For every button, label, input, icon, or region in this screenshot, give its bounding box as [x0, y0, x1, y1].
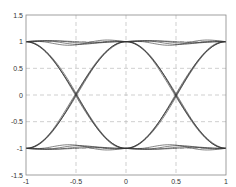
- x-tick-label: -0.5: [70, 178, 82, 185]
- y-tick-label: 0.5: [13, 65, 23, 72]
- y-tick-label: -1.5: [11, 172, 23, 179]
- eye-diagram-chart: -1-0.500.51 -1.5-1-0.500.511.5: [0, 0, 236, 187]
- y-axis-ticks: -1.5-1-0.500.511.5: [11, 12, 23, 179]
- y-tick-label: 1.5: [13, 12, 23, 19]
- x-tick-label: 1: [224, 178, 228, 185]
- x-axis-ticks: -1-0.500.51: [23, 178, 228, 185]
- y-tick-label: -1: [17, 145, 23, 152]
- y-tick-label: 0: [19, 92, 23, 99]
- y-tick-label: 1: [19, 38, 23, 45]
- x-tick-label: -1: [23, 178, 29, 185]
- x-tick-label: 0.5: [171, 178, 181, 185]
- x-tick-label: 0: [124, 178, 128, 185]
- y-tick-label: -0.5: [11, 118, 23, 125]
